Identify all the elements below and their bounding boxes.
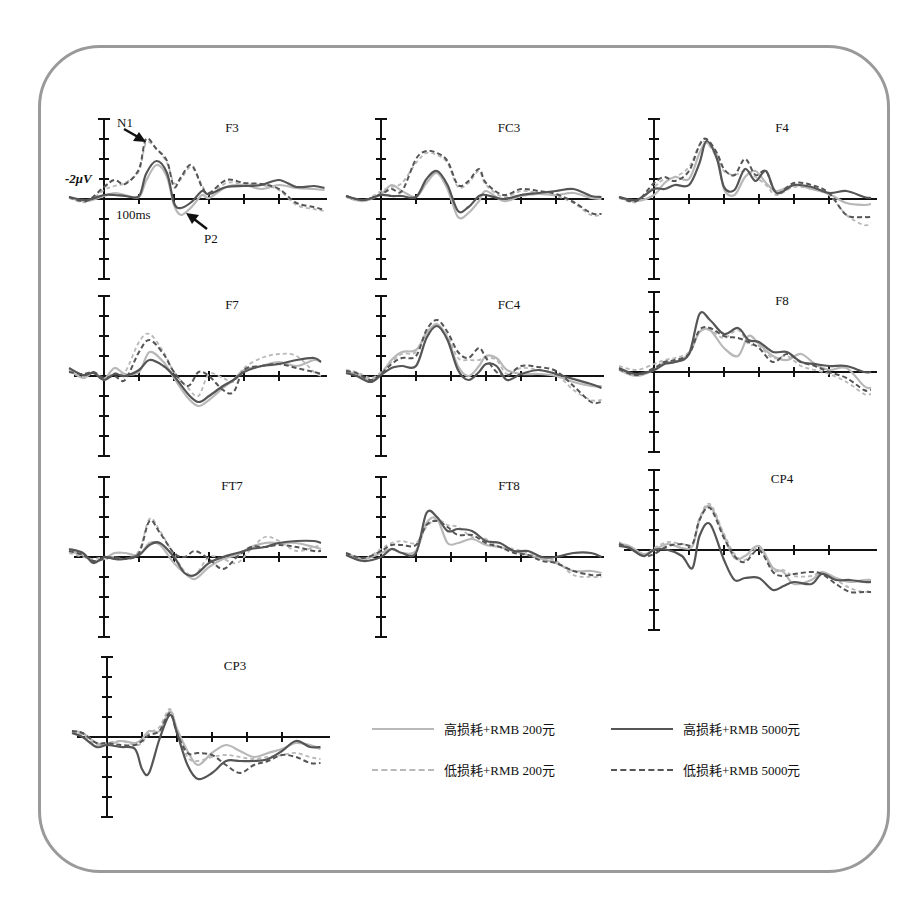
legend-label: 低损耗+RMB 5000元 (683, 760, 800, 779)
waveform-ll200 (619, 329, 871, 395)
waveform-ll5000 (69, 340, 321, 394)
panel-title: FC3 (498, 120, 520, 135)
p2-arrow-icon (194, 219, 207, 229)
waveform-ll5000 (69, 520, 321, 569)
panel-title: CP4 (771, 471, 794, 486)
legend-item-high-loss-200: 高损耗+RMB 200元 (372, 719, 555, 738)
n1-arrow-icon (124, 129, 138, 137)
erp-panel-f3: F3 (69, 119, 327, 280)
panel-title: FT7 (221, 478, 243, 493)
panel-title: F8 (775, 293, 789, 308)
x-scale-label: 100ms (116, 207, 151, 222)
legend-swatch-light-solid (372, 728, 434, 730)
waveform-ll200 (69, 334, 321, 397)
legend-label: 低损耗+RMB 200元 (444, 760, 555, 779)
legend-swatch-dark-dashed (611, 769, 673, 771)
p2-label: P2 (204, 231, 218, 246)
n1-label: N1 (117, 115, 133, 130)
erp-panel-f7: F7 (69, 296, 327, 457)
panel-title: FT8 (498, 478, 520, 493)
panel-title: F4 (775, 120, 789, 135)
panel-title: F3 (225, 120, 239, 135)
erp-panel-f8: F8 (619, 292, 877, 453)
legend-item-low-loss-200: 低损耗+RMB 200元 (372, 760, 555, 779)
erp-panel-ft7: FT7 (69, 477, 327, 638)
waveform-hl200 (69, 165, 325, 215)
erp-panel-fc4: FC4 (346, 296, 604, 457)
panel-title: F7 (225, 297, 239, 312)
waveform-ll5000 (346, 320, 602, 403)
legend-label: 高损耗+RMB 200元 (444, 719, 555, 738)
legend-swatch-light-dashed (372, 769, 434, 771)
erp-panel-fc3: FC3 (346, 119, 604, 280)
n1-arrowhead-icon (133, 132, 146, 142)
waveform-hl200 (69, 542, 321, 579)
waveform-ll200 (619, 142, 871, 226)
erp-panel-cp4: CP4 (619, 470, 877, 631)
waveform-ll5000 (346, 151, 602, 215)
erp-panel-f4: F4 (619, 119, 877, 280)
waveform-hl200 (619, 143, 871, 205)
legend-swatch-dark-solid (611, 728, 673, 730)
legend-item-low-loss-5000: 低损耗+RMB 5000元 (611, 760, 800, 779)
waveform-ll200 (346, 326, 602, 401)
legend-label: 高损耗+RMB 5000元 (683, 719, 800, 738)
waveform-hl5000 (72, 715, 321, 779)
panel-title: FC4 (498, 297, 521, 312)
waveform-hl5000 (346, 511, 602, 561)
waveform-ll200 (69, 518, 321, 575)
erp-panel-ft8: FT8 (346, 477, 604, 638)
y-scale-label: -2μV (65, 171, 93, 186)
panel-title: CP3 (224, 658, 246, 673)
waveform-hl200 (619, 506, 871, 585)
legend-item-high-loss-5000: 高损耗+RMB 5000元 (611, 719, 800, 738)
waveform-hl200 (346, 517, 602, 573)
erp-panel-cp3: CP3 (72, 657, 330, 818)
